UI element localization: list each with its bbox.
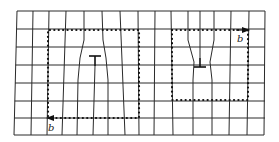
left-burgers-vector-label: b	[48, 122, 54, 133]
right-burgers-circuit: b	[172, 27, 250, 100]
dislocation-lattice-diagram: b b	[0, 0, 279, 142]
right-dislocation-symbol	[194, 58, 206, 67]
right-burgers-vector-label: b	[237, 33, 243, 44]
